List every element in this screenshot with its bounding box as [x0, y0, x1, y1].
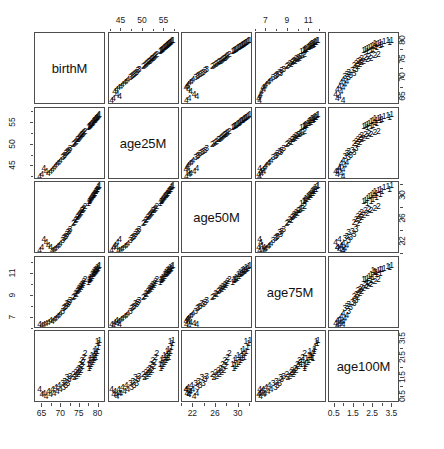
- y-minor-tick: [31, 176, 34, 177]
- data-point: 3: [354, 296, 359, 305]
- data-point: 3: [281, 371, 286, 380]
- diagonal-panel-age100M: age100M: [328, 330, 399, 402]
- data-point: 1: [247, 35, 252, 44]
- x-tick-label: 75: [74, 409, 83, 418]
- data-point: 4: [335, 243, 340, 252]
- data-point: 4: [257, 172, 262, 178]
- data-point: 3: [354, 144, 359, 153]
- y-tick-label: 55: [7, 112, 16, 132]
- x-minor-tick: [249, 403, 250, 406]
- data-point: 3: [354, 225, 359, 234]
- y-tick-label: 75: [397, 49, 406, 69]
- data-point: 1: [171, 261, 176, 270]
- scatter-panel-age100M-vs-birthM: 1111111111111111111112222222222222223333…: [328, 32, 399, 104]
- x-major-tick: [142, 28, 143, 32]
- data-point: 2: [227, 126, 232, 135]
- data-point: 1: [247, 335, 252, 344]
- data-point: 4: [257, 385, 262, 394]
- x-tick-label: 30: [233, 409, 242, 418]
- x-minor-tick: [298, 29, 299, 32]
- x-minor-tick: [70, 403, 71, 406]
- scatter-panel-age75M-vs-age25M: 1111111111111111111112222222222222223333…: [255, 107, 326, 179]
- x-minor-tick: [382, 403, 383, 406]
- data-point: 4: [257, 245, 262, 253]
- x-minor-tick: [174, 29, 175, 32]
- data-point: 1: [230, 360, 235, 369]
- data-point: 1: [171, 181, 176, 189]
- data-point: 4: [109, 245, 114, 253]
- data-point: 4: [194, 320, 199, 327]
- data-point: 2: [210, 292, 215, 301]
- y-major-tick: [30, 273, 34, 274]
- x-minor-tick: [343, 403, 344, 406]
- x-major-tick: [163, 28, 164, 32]
- data-point: 3: [68, 225, 73, 234]
- data-point: 2: [83, 274, 88, 283]
- data-point: 2: [83, 126, 88, 135]
- data-point: 2: [376, 50, 381, 59]
- x-major-tick: [391, 403, 392, 407]
- data-point: 2: [83, 202, 88, 211]
- data-point: 4: [184, 96, 189, 104]
- data-point: 4: [194, 92, 199, 101]
- x-tick-label: 55: [159, 16, 168, 25]
- data-point: 2: [376, 202, 381, 211]
- data-point: 3: [137, 225, 142, 234]
- data-point: 1: [316, 110, 321, 119]
- data-point: 3: [354, 65, 359, 74]
- data-point: 2: [376, 126, 381, 135]
- scatter-panel-age25M-vs-age75M: 1111111111111111111112222222222222223333…: [108, 256, 179, 328]
- data-point: 4: [37, 320, 42, 327]
- x-tick-label: 1.5: [347, 409, 359, 418]
- data-point: 1: [316, 335, 321, 344]
- scatter-panel-age75M-vs-age100M: 1111111111111111111112222222222222223333…: [255, 330, 326, 402]
- data-point: 1: [389, 181, 394, 189]
- variable-label-age100M: age100M: [329, 359, 398, 374]
- y-tick-label: 45: [7, 155, 16, 175]
- data-point: 1: [171, 35, 176, 44]
- data-point: 3: [137, 371, 142, 380]
- scatter-panel-birthM-vs-age100M: 1111111111111111111112222222222222223333…: [34, 330, 105, 402]
- x-minor-tick: [363, 403, 364, 406]
- data-point: 4: [335, 170, 340, 179]
- y-tick-label: 1.5: [397, 367, 406, 387]
- y-tick-label: 22: [397, 231, 406, 251]
- x-major-tick: [353, 403, 354, 407]
- x-tick-label: 26: [210, 409, 219, 418]
- y-tick-label: 9: [7, 285, 16, 305]
- data-point: 4: [184, 320, 189, 327]
- data-point: 3: [137, 65, 142, 74]
- y-tick-label: 50: [7, 134, 16, 154]
- x-tick-label: 50: [137, 16, 146, 25]
- data-point: 1: [316, 35, 321, 44]
- y-tick-label: 30: [397, 185, 406, 205]
- data-point: 3: [68, 296, 73, 305]
- scatter-panel-age100M-vs-age25M: 1111111111111111111112222222222222223333…: [328, 107, 399, 179]
- x-tick-label: 0.5: [328, 409, 340, 418]
- y-major-tick: [30, 165, 34, 166]
- y-minor-tick: [31, 155, 34, 156]
- x-major-tick: [238, 403, 239, 407]
- x-tick-label: 70: [55, 409, 64, 418]
- x-major-tick: [41, 403, 42, 407]
- data-point: 2: [376, 274, 381, 283]
- scatter-panel-birthM-vs-age25M: 1111111111111111111112222222222222223333…: [34, 107, 105, 179]
- x-major-tick: [372, 403, 373, 407]
- y-tick-label: 70: [397, 67, 406, 87]
- scatter-panel-age25M-vs-age50M: 1111111111111111111112222222222222223333…: [108, 181, 179, 253]
- y-minor-tick: [31, 111, 34, 112]
- x-tick-label: 65: [37, 409, 46, 418]
- y-major-tick: [30, 317, 34, 318]
- data-point: 4: [117, 235, 122, 244]
- y-tick-label: 65: [397, 86, 406, 106]
- data-point: 3: [281, 225, 286, 234]
- data-point: 3: [68, 371, 73, 380]
- diagonal-panel-birthM: birthM: [34, 32, 105, 104]
- data-point: 3: [281, 144, 286, 153]
- x-major-tick: [98, 403, 99, 407]
- scatter-panel-birthM-vs-age75M: 1111111111111111111112222222222222223333…: [34, 256, 105, 328]
- data-point: 4: [117, 92, 122, 101]
- y-minor-tick: [400, 253, 403, 254]
- data-point: 1: [86, 360, 91, 369]
- data-point: 4: [184, 385, 189, 394]
